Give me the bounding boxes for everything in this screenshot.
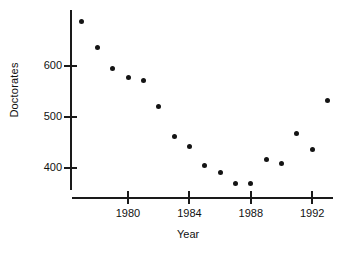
y-axis-tick [64, 65, 77, 67]
data-point [264, 157, 269, 162]
data-point [79, 19, 84, 24]
x-axis-tick-label: 1988 [229, 207, 273, 219]
data-point [172, 134, 177, 139]
x-axis-tick [188, 191, 190, 204]
y-axis-line [70, 10, 72, 190]
y-axis-tick [64, 116, 77, 118]
x-axis-tick-label: 1984 [167, 207, 211, 219]
x-axis-line [72, 197, 333, 199]
data-point [279, 161, 284, 166]
y-axis-label: Doctorates [8, 50, 20, 130]
y-axis-tick [64, 167, 77, 169]
data-point [156, 104, 161, 109]
x-axis-tick-label: 1980 [106, 207, 150, 219]
data-point [95, 45, 100, 50]
x-axis-label: Year [0, 228, 355, 240]
data-point [233, 181, 238, 186]
data-point [202, 163, 207, 168]
data-point [310, 147, 315, 152]
data-point [294, 131, 299, 136]
scatter-chart: Doctorates Year 400500600198019841988199… [0, 0, 355, 253]
y-axis-tick-label: 500 [22, 110, 62, 122]
data-point [141, 78, 146, 83]
data-point [110, 66, 115, 71]
data-point [325, 98, 330, 103]
data-point [187, 144, 192, 149]
x-axis-tick-label: 1992 [290, 207, 334, 219]
data-point [126, 75, 131, 80]
data-point [248, 181, 253, 186]
x-axis-tick [311, 191, 313, 204]
y-axis-tick-label: 400 [22, 161, 62, 173]
data-point [218, 170, 223, 175]
x-axis-tick [250, 191, 252, 204]
x-axis-tick [127, 191, 129, 204]
y-axis-tick-label: 600 [22, 59, 62, 71]
